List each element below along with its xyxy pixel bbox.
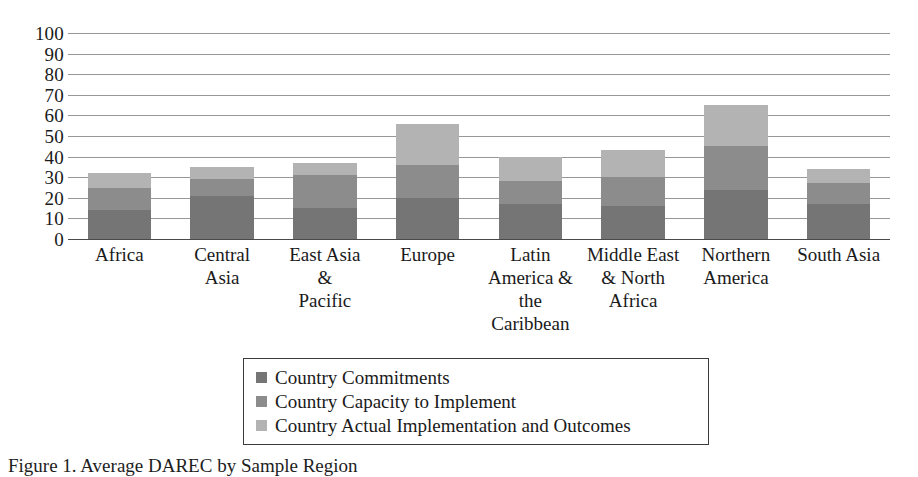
bar-slot (376, 33, 479, 239)
x-axis-label: Northern America (677, 243, 796, 289)
bar-segment[interactable] (396, 198, 460, 239)
bar-segment[interactable] (807, 183, 871, 204)
bar-slot (68, 33, 171, 239)
bar-stack[interactable] (396, 124, 460, 239)
bar-slot (787, 33, 890, 239)
bar-segment[interactable] (807, 204, 871, 239)
bar-segment[interactable] (396, 124, 460, 165)
bars-layer (68, 33, 890, 239)
bar-stack[interactable] (88, 173, 152, 239)
bar-segment[interactable] (88, 173, 152, 187)
x-axis-label: South Asia (779, 243, 898, 266)
bar-stack[interactable] (499, 157, 563, 239)
bar-segment[interactable] (601, 150, 665, 177)
bar-segment[interactable] (807, 169, 871, 183)
bar-stack[interactable] (601, 150, 665, 239)
legend-item: Country Commitments (256, 365, 698, 389)
bar-segment[interactable] (293, 163, 357, 175)
legend-item-label: Country Actual Implementation and Outcom… (275, 415, 631, 436)
legend-item: Country Capacity to Implement (256, 389, 698, 413)
bar-slot (171, 33, 274, 239)
legend-swatch-medium-icon (256, 396, 267, 407)
legend-swatch-dark-icon (256, 372, 267, 383)
legend-item: Country Actual Implementation and Outcom… (256, 413, 698, 437)
bar-segment[interactable] (704, 190, 768, 239)
bar-slot (274, 33, 377, 239)
bar-segment[interactable] (190, 167, 254, 179)
x-axis-category-labels: AfricaCentral AsiaEast Asia & PacificEur… (68, 243, 890, 353)
bar-slot (582, 33, 685, 239)
y-axis-tick-label: 80 (14, 65, 64, 84)
bar-segment[interactable] (396, 165, 460, 198)
bar-segment[interactable] (601, 177, 665, 206)
y-axis-tick-label: 40 (14, 147, 64, 166)
bar-segment[interactable] (293, 208, 357, 239)
bar-stack[interactable] (293, 163, 357, 239)
bar-segment[interactable] (293, 175, 357, 208)
x-axis-line (68, 239, 890, 240)
y-axis-tick-label: 20 (14, 188, 64, 207)
figure-caption: Figure 1. Average DAREC by Sample Region (8, 455, 908, 477)
plot-wrapper: 0102030405060708090100 AfricaCentral Asi… (0, 0, 918, 250)
bar-stack[interactable] (807, 169, 871, 239)
legend-swatch-light-icon (256, 420, 267, 431)
y-axis: 0102030405060708090100 (14, 24, 64, 240)
y-axis-tick-label: 50 (14, 127, 64, 146)
y-axis-tick-label: 30 (14, 168, 64, 187)
x-axis-label: Europe (368, 243, 487, 266)
chart-legend: Country Commitments Country Capacity to … (243, 358, 709, 445)
y-axis-tick-label: 70 (14, 85, 64, 104)
plot-area (68, 33, 890, 239)
y-axis-tick-label: 10 (14, 209, 64, 228)
bar-segment[interactable] (601, 206, 665, 239)
y-axis-tick-label: 100 (14, 24, 64, 43)
bar-segment[interactable] (499, 157, 563, 182)
bar-segment[interactable] (499, 204, 563, 239)
bar-segment[interactable] (704, 146, 768, 189)
bar-slot (479, 33, 582, 239)
bar-segment[interactable] (499, 181, 563, 204)
x-axis-label: Middle East & North Africa (574, 243, 693, 312)
bar-segment[interactable] (88, 210, 152, 239)
legend-item-label: Country Commitments (275, 367, 450, 388)
x-axis-label: Central Asia (163, 243, 282, 289)
y-axis-tick-label: 90 (14, 44, 64, 63)
bar-segment[interactable] (190, 196, 254, 239)
x-axis-label: East Asia & Pacific (266, 243, 385, 312)
x-axis-label: Africa (60, 243, 179, 266)
x-axis-label: Latin America & the Caribbean (471, 243, 590, 335)
bar-segment[interactable] (704, 105, 768, 146)
bar-slot (685, 33, 788, 239)
bar-segment[interactable] (88, 188, 152, 211)
y-axis-tick-label: 0 (14, 230, 64, 249)
legend-item-label: Country Capacity to Implement (275, 391, 516, 412)
bar-stack[interactable] (190, 167, 254, 239)
bar-stack[interactable] (704, 105, 768, 239)
y-axis-tick-label: 60 (14, 106, 64, 125)
bar-segment[interactable] (190, 179, 254, 195)
